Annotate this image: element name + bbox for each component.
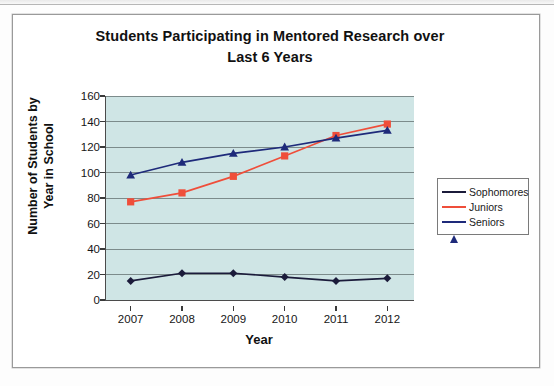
- legend-item-sophomores[interactable]: Sophomores: [442, 184, 523, 199]
- legend-label-seniors: Seniors: [469, 216, 505, 228]
- y-axis-title-line-2: Year in School: [42, 123, 56, 209]
- x-tick-mark: [284, 306, 285, 311]
- legend-label-sophomores: Sophomores: [469, 186, 529, 198]
- legend-marker-triangle-icon: [442, 215, 466, 228]
- chart-legend: Sophomores Juniors Seniors: [437, 178, 529, 235]
- y-tick-label: 60: [60, 218, 100, 230]
- y-axis-title: Number of Students by Year in School: [25, 61, 57, 271]
- data-point-square-icon: [127, 198, 134, 205]
- y-tick-label: 20: [60, 269, 100, 281]
- y-tick-label: 120: [60, 141, 100, 153]
- series-line: [131, 130, 388, 175]
- x-tick-mark: [130, 306, 131, 311]
- series-layer: [105, 96, 413, 300]
- data-point-square-icon: [230, 173, 237, 180]
- x-tick-label: 2012: [357, 313, 417, 325]
- series-seniors: [126, 126, 391, 178]
- x-tick-mark: [233, 306, 234, 311]
- y-tick-label: 160: [60, 90, 100, 102]
- legend-marker-diamond-icon: [442, 185, 466, 198]
- series-line: [131, 273, 388, 281]
- y-tick-label: 40: [60, 243, 100, 255]
- y-tick-label: 140: [60, 116, 100, 128]
- x-tick-mark: [387, 306, 388, 311]
- x-tick-mark: [335, 306, 336, 311]
- y-tick-label: 100: [60, 167, 100, 179]
- data-point-diamond-icon: [383, 274, 391, 282]
- legend-marker-square-icon: [442, 200, 466, 213]
- data-point-square-icon: [178, 189, 185, 196]
- legend-label-juniors: Juniors: [469, 201, 503, 213]
- y-tick-label: 0: [60, 294, 100, 306]
- series-juniors: [127, 120, 391, 205]
- data-point-diamond-icon: [229, 269, 237, 277]
- x-tick-mark: [181, 306, 182, 311]
- series-sophomores: [127, 269, 392, 285]
- y-axis-title-line-1: Number of Students by: [26, 97, 40, 235]
- plot-wrapper: 020406080100120140160 Number of Students…: [0, 0, 554, 386]
- data-point-diamond-icon: [127, 277, 135, 285]
- x-axis-title: Year: [105, 332, 413, 347]
- data-point-diamond-icon: [332, 277, 340, 285]
- data-point-square-icon: [281, 152, 288, 159]
- data-point-diamond-icon: [178, 269, 186, 277]
- x-axis: 200720082009201020112012: [105, 306, 413, 324]
- legend-item-seniors[interactable]: Seniors: [442, 214, 523, 229]
- legend-item-juniors[interactable]: Juniors: [442, 199, 523, 214]
- y-axis: 020406080100120140160: [55, 96, 100, 300]
- data-point-diamond-icon: [281, 273, 289, 281]
- y-tick-label: 80: [60, 192, 100, 204]
